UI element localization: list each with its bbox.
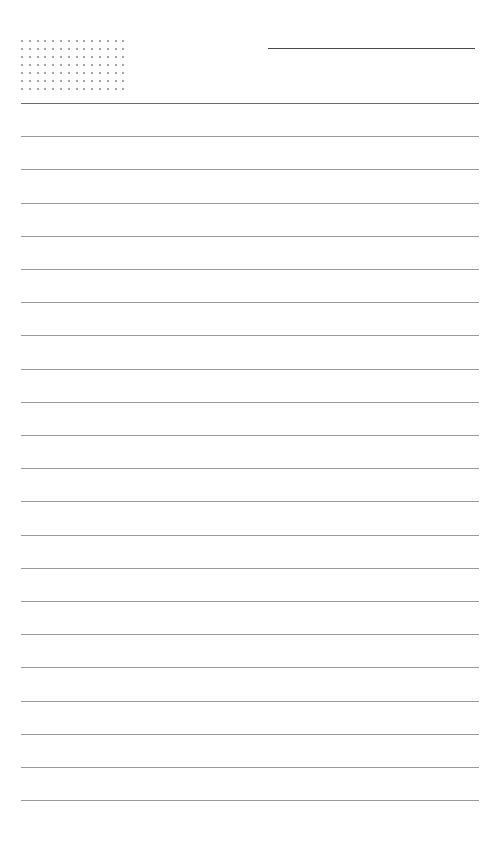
dot	[83, 72, 85, 74]
notepaper-page	[0, 0, 494, 863]
ruled-line	[21, 335, 479, 336]
dot	[122, 40, 124, 42]
dot	[52, 40, 54, 42]
dot	[122, 80, 124, 82]
dot	[83, 56, 85, 58]
dot	[122, 88, 124, 90]
ruled-line	[21, 634, 479, 635]
dot	[44, 48, 46, 50]
dot-grid-decoration	[19, 38, 127, 92]
dot	[115, 80, 117, 82]
ruled-line	[21, 169, 479, 170]
dot	[107, 80, 109, 82]
ruled-line	[21, 501, 479, 502]
dot	[83, 48, 85, 50]
dot	[76, 72, 78, 74]
dot	[68, 56, 70, 58]
dot	[122, 48, 124, 50]
ruled-line	[21, 369, 479, 370]
dot	[29, 48, 31, 50]
dot	[44, 72, 46, 74]
dot	[99, 40, 101, 42]
ruled-line	[21, 269, 479, 270]
dot	[107, 64, 109, 66]
dot	[122, 64, 124, 66]
ruled-line	[21, 302, 479, 303]
dot	[44, 56, 46, 58]
dot	[37, 88, 39, 90]
ruled-line	[21, 568, 479, 569]
dot	[76, 40, 78, 42]
dot	[29, 40, 31, 42]
dot	[52, 48, 54, 50]
dot	[29, 80, 31, 82]
dot	[68, 48, 70, 50]
dot	[52, 80, 54, 82]
dot	[76, 56, 78, 58]
dot	[115, 88, 117, 90]
dot	[60, 64, 62, 66]
dot	[60, 80, 62, 82]
ruled-line	[21, 734, 479, 735]
dot	[60, 56, 62, 58]
dot	[52, 72, 54, 74]
dot	[60, 40, 62, 42]
dot	[76, 48, 78, 50]
dot	[68, 80, 70, 82]
dot	[68, 72, 70, 74]
dot	[52, 56, 54, 58]
dot	[99, 72, 101, 74]
dot	[115, 48, 117, 50]
dot	[21, 48, 23, 50]
dot	[91, 80, 93, 82]
dot	[76, 80, 78, 82]
dot	[115, 72, 117, 74]
dot	[52, 64, 54, 66]
dot	[52, 88, 54, 90]
dot	[37, 56, 39, 58]
dot	[115, 40, 117, 42]
dot	[44, 80, 46, 82]
dot	[83, 88, 85, 90]
dot	[91, 88, 93, 90]
dot	[83, 40, 85, 42]
dot	[21, 64, 23, 66]
dot	[44, 40, 46, 42]
dot	[21, 80, 23, 82]
ruled-line	[21, 136, 479, 137]
ruled-line	[21, 800, 479, 801]
ruled-line	[21, 103, 479, 104]
dot	[29, 72, 31, 74]
ruled-line	[21, 435, 479, 436]
dot	[115, 64, 117, 66]
dot	[76, 64, 78, 66]
dot	[76, 88, 78, 90]
ruled-line	[21, 203, 479, 204]
ruled-line	[21, 535, 479, 536]
ruled-line	[21, 402, 479, 403]
dot	[44, 64, 46, 66]
dot	[122, 72, 124, 74]
dot	[122, 56, 124, 58]
dot	[37, 72, 39, 74]
dot	[37, 64, 39, 66]
dot	[83, 80, 85, 82]
dot	[99, 64, 101, 66]
dot	[91, 56, 93, 58]
ruled-line	[21, 236, 479, 237]
dot	[107, 56, 109, 58]
dot	[37, 48, 39, 50]
dot	[107, 72, 109, 74]
dot	[21, 72, 23, 74]
dot	[107, 48, 109, 50]
dot	[99, 80, 101, 82]
dot	[107, 40, 109, 42]
dot	[29, 56, 31, 58]
ruled-line	[21, 667, 479, 668]
dot	[115, 56, 117, 58]
dot	[60, 72, 62, 74]
dot	[91, 72, 93, 74]
dot	[91, 40, 93, 42]
dot	[68, 88, 70, 90]
dot	[37, 80, 39, 82]
